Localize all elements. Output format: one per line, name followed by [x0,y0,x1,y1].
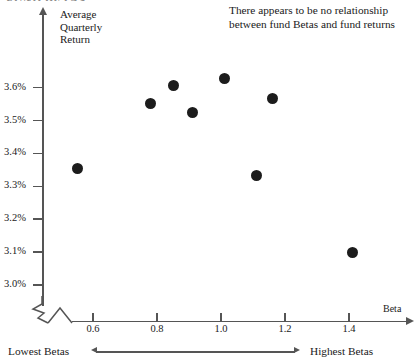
scatter-point [267,93,278,104]
y-axis-tick [33,153,42,155]
x-axis-title: Beta [383,303,401,314]
y-axis-tick-label: 3.0% [4,278,31,289]
scatter-point [347,247,358,258]
scatter-point [251,170,262,181]
scatter-point [187,107,198,118]
y-axis-title-line-2: Quarterly [60,21,102,34]
y-axis-title-line-1: Average [60,8,102,21]
y-axis-tick-label: 3.5% [4,114,31,125]
x-axis-tick [92,313,94,321]
x-axis-tick-label: 1.2 [272,323,298,334]
y-axis-tick [33,186,42,188]
annotation-line-1: There appears to be no relationship [229,4,395,18]
scatter-point [168,80,179,91]
y-axis-tick-label: 3.3% [4,179,31,190]
y-axis-tick [33,218,42,220]
x-axis-tick-label: 1.0 [208,323,234,334]
y-axis-break-icon [30,296,82,324]
y-axis-tick [33,120,42,122]
y-axis-line [42,14,44,306]
footer-highest-label: Highest Betas [310,345,373,357]
chart-annotation: There appears to be no relationship betw… [229,4,395,31]
y-axis-arrowhead-icon [39,7,47,15]
x-axis-tick-label: 1.4 [336,323,362,334]
direction-arrow-line [96,351,295,352]
direction-arrow-right-icon [294,347,300,353]
x-axis-tick [220,313,222,321]
annotation-line-2: between fund Betas and fund returns [229,18,395,32]
chart-title-cutoff: FUND BETAS [6,0,86,1]
x-axis-arrowhead-icon [406,317,414,325]
y-axis-tick-label: 3.2% [4,212,31,223]
x-axis-tick-label: 0.6 [80,323,106,334]
x-axis-tick-label: 0.8 [144,323,170,334]
y-axis-tick [33,87,42,89]
y-axis-tick-label: 3.4% [4,146,31,157]
y-axis-title: Average Quarterly Return [60,8,102,46]
y-axis-title-line-3: Return [60,33,102,46]
y-axis-tick [33,284,42,286]
x-axis-tick [348,313,350,321]
y-axis-tick [33,251,42,253]
x-axis-tick [156,313,158,321]
x-axis-tick [284,313,286,321]
y-axis-tick-label: 3.1% [4,245,31,256]
scatter-point [219,73,230,84]
x-axis-line [72,321,408,323]
chart-canvas: FUND BETAS There appears to be no relati… [0,0,420,363]
scatter-point [72,163,83,174]
scatter-point [145,98,156,109]
footer-lowest-label: Lowest Betas [8,345,69,357]
y-axis-tick-label: 3.6% [4,81,31,92]
